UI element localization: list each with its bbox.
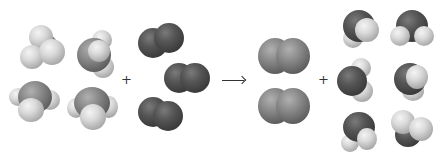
nitrogen-atom [276,38,310,74]
nitrogen-molecule-1 [258,37,310,75]
hydrogen-atom [39,39,65,65]
ammonia-molecule-2 [76,28,116,84]
oxygen-molecule-1 [138,22,184,62]
water-molecule-4 [394,61,432,101]
hydrogen-atom [18,98,44,122]
water-molecule-6 [391,109,434,149]
hydrogen-atom [406,65,428,89]
oxygen-molecule-2 [164,62,210,94]
ammonia-molecule-1 [18,22,68,72]
water-molecule-5 [341,112,381,156]
hydrogen-atom [390,26,410,46]
reaction-diagram: + + [0,0,434,158]
oxygen-atom [337,66,367,96]
water-molecule-3 [337,58,377,102]
water-molecule-1 [341,8,381,50]
nitrogen-atom [276,88,310,124]
water-molecule-2 [390,10,434,50]
ammonia-molecule-3 [8,80,60,124]
hydrogen-atom [88,40,110,62]
oxygen-atom [154,23,184,53]
oxygen-molecule-3 [138,96,184,134]
reaction-arrow [222,80,244,81]
ammonia-molecule-4 [66,86,118,132]
oxygen-atom [180,63,210,93]
hydrogen-atom [409,117,433,141]
plus-sign: + [318,73,329,86]
oxygen-atom [153,101,183,131]
plus-sign: + [121,73,132,86]
hydrogen-atom [355,18,379,42]
hydrogen-atom [357,128,377,150]
hydrogen-atom [80,104,106,130]
nitrogen-molecule-2 [258,87,310,125]
hydrogen-atom [414,26,434,46]
